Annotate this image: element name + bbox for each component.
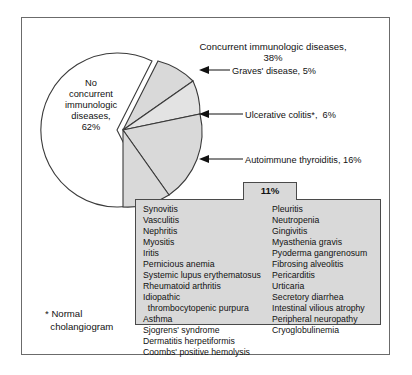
disease-list-left-column: SynovitisVasculitisNephritisMyositisIrit… <box>143 204 263 358</box>
disease-list-item: Asthma <box>143 314 263 325</box>
disease-list-item: Iritis <box>143 248 263 259</box>
disease-list-item: Pyoderma gangrenosum <box>272 248 382 259</box>
disease-list-item: Coombs' positive hemolysis <box>143 347 263 358</box>
disease-list-item: Urticaria <box>272 281 382 292</box>
disease-list-item: Intestinal vilious atrophy <box>272 303 382 314</box>
disease-list-item: Fibrosing alveolitis <box>272 259 382 270</box>
disease-list-item: Pernicious anemia <box>143 259 263 270</box>
footnote: * Normal cholangiogram <box>45 308 113 334</box>
disease-list-item: Dermatitis herpetiformis <box>143 336 263 347</box>
callout-label-graves: Graves' disease, 5% <box>232 66 316 77</box>
pie-center-label: No concurrent immunologic diseases, 62% <box>48 78 134 133</box>
disease-list-item: Secretory diarrhea <box>272 292 382 303</box>
disease-list-item: Idiopathic <box>143 292 263 303</box>
disease-list-item: Systemic lupus erythematosus <box>143 270 263 281</box>
disease-list-item: Cryoglobulinemia <box>272 325 382 336</box>
disease-list-item: thrombocytopenic purpura <box>143 303 263 314</box>
chart-title: Concurrent immunologic diseases, 38% <box>173 41 373 64</box>
disease-list-item: Peripheral neuropathy <box>272 314 382 325</box>
tab-joint-mask <box>244 197 296 201</box>
disease-list-item: Pleuritis <box>272 204 382 215</box>
other-percent-label: 11% <box>243 185 297 196</box>
disease-list-item: Rheumatoid arthritis <box>143 281 263 292</box>
disease-list-item: Sjogrens' syndrome <box>143 325 263 336</box>
disease-list-right-column: PleuritisNeutropeniaGingivitisMyasthenia… <box>272 204 382 336</box>
disease-list-item: Synovitis <box>143 204 263 215</box>
disease-list-item: Myositis <box>143 237 263 248</box>
disease-list-item: Vasculitis <box>143 215 263 226</box>
callout-label-autoimmune-thyroiditis: Autoimmune thyroiditis, 16% <box>245 155 361 166</box>
disease-list-item: Gingivitis <box>272 226 382 237</box>
callout-label-ulcerative-colitis: Ulcerative colitis*, 6% <box>245 110 336 121</box>
disease-list-item: Myasthenia gravis <box>272 237 382 248</box>
disease-list-item: Neutropenia <box>272 215 382 226</box>
disease-list-item: Pericarditis <box>272 270 382 281</box>
disease-list-item: Nephritis <box>143 226 263 237</box>
